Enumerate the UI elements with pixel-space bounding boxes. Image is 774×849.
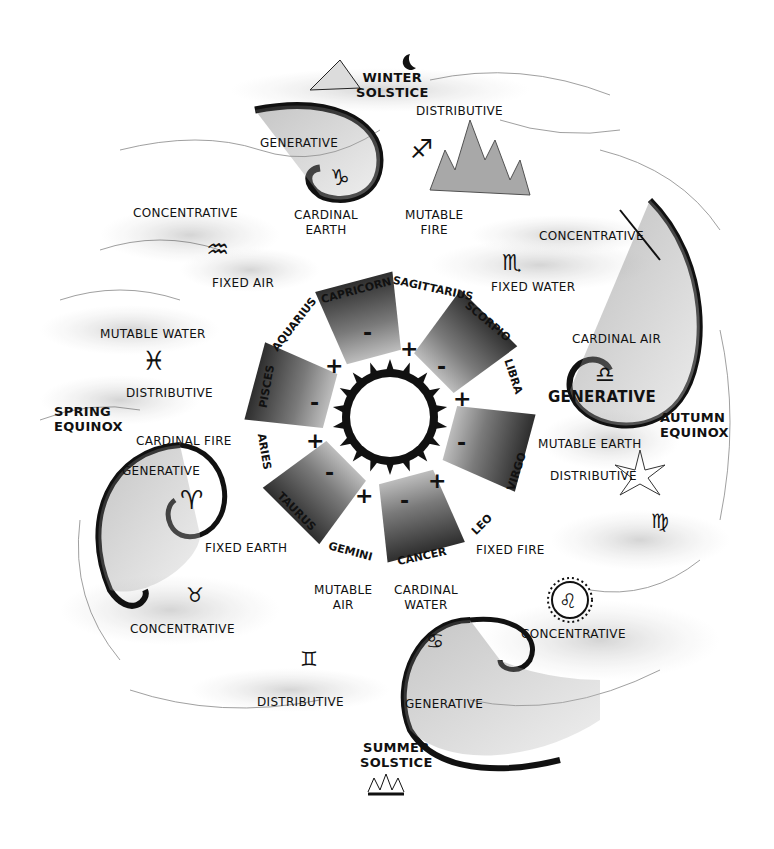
plus-libra: +: [453, 388, 471, 410]
mutable-fire-line-2: FIRE: [405, 223, 463, 238]
label-distributive-sagittarius: DISTRIBUTIVE: [416, 104, 503, 119]
zodiac-wheel-illustration: - - - - - - + + + + + + AQUARIUS CAPRICO…: [0, 0, 774, 849]
label-cardinal-fire: CARDINAL FIRE: [136, 434, 232, 449]
plus-aries: +: [306, 430, 324, 452]
cardinal-earth-line-1: CARDINAL: [294, 208, 358, 223]
label-summer-solstice: SUMMER SOLSTICE: [360, 740, 433, 770]
plus-sagittarius: +: [400, 338, 418, 360]
autumn-line-1: AUTUMN: [660, 410, 729, 425]
libra-glyph-icon: ♎: [595, 362, 615, 388]
label-distributive-virgo: DISTRIBUTIVE: [550, 469, 637, 484]
sagittarius-glyph-icon: ♐: [410, 136, 433, 162]
virgo-glyph-icon: ♍: [651, 508, 669, 534]
minus-cancer: -: [400, 490, 409, 512]
label-mutable-water: MUTABLE WATER: [100, 327, 206, 342]
label-fixed-air: FIXED AIR: [212, 276, 274, 291]
autumn-line-2: EQUINOX: [660, 425, 729, 440]
label-cardinal-air: CARDINAL AIR: [572, 332, 661, 347]
spring-line-1: SPRING: [54, 404, 123, 419]
label-concentrative-leo: CONCENTRATIVE: [521, 627, 626, 642]
label-concentrative-aquarius: CONCENTRATIVE: [133, 206, 238, 221]
pisces-glyph-icon: ♓: [142, 348, 165, 374]
crescent-moon: [403, 54, 416, 70]
label-distributive-gemini: DISTRIBUTIVE: [257, 695, 344, 710]
label-winter-solstice: WINTER SOLSTICE: [356, 70, 429, 100]
label-concentrative-taurus: CONCENTRATIVE: [130, 622, 235, 637]
minus-pisces: -: [310, 392, 319, 414]
cardinal-water-line-2: WATER: [394, 598, 458, 613]
minus-scorpio: -: [437, 356, 446, 378]
mutable-fire-line-1: MUTABLE: [405, 208, 463, 223]
cardinal-earth-line-2: EARTH: [294, 223, 358, 238]
label-autumn-equinox: AUTUMN EQUINOX: [660, 410, 729, 440]
label-generative-capricorn: GENERATIVE: [260, 136, 338, 151]
cancer-glyph-icon: ♋: [426, 628, 444, 654]
label-cardinal-water: CARDINAL WATER: [394, 583, 458, 613]
aquarius-glyph-icon: ♒: [206, 236, 229, 262]
mutable-air-line-1: MUTABLE: [314, 583, 372, 598]
minus-capricorn: -: [363, 322, 372, 344]
label-mutable-air: MUTABLE AIR: [314, 583, 372, 613]
leo-glyph-icon: ♌: [559, 588, 577, 614]
summer-line-2: SOLSTICE: [360, 755, 433, 770]
label-distributive-pisces: DISTRIBUTIVE: [126, 386, 213, 401]
plus-aquarius: +: [325, 355, 343, 377]
spring-line-2: EQUINOX: [54, 419, 123, 434]
label-fixed-earth: FIXED EARTH: [205, 541, 287, 556]
taurus-glyph-icon: ♉: [186, 582, 204, 608]
label-concentrative-scorpio: CONCENTRATIVE: [539, 229, 644, 244]
minus-taurus: -: [325, 462, 334, 484]
winter-line-2: SOLSTICE: [356, 85, 429, 100]
label-spring-equinox: SPRING EQUINOX: [54, 404, 123, 434]
gemini-glyph-icon: ♊: [300, 646, 318, 672]
summer-line-1: SUMMER: [360, 740, 433, 755]
label-fixed-water: FIXED WATER: [491, 280, 575, 295]
aries-glyph-icon: ♈: [180, 487, 203, 513]
plus-gemini: +: [355, 485, 373, 507]
label-generative-libra: GENERATIVE: [548, 390, 656, 405]
cardinal-water-line-1: CARDINAL: [394, 583, 458, 598]
label-mutable-earth: MUTABLE EARTH: [538, 437, 642, 452]
mutable-air-line-2: AIR: [314, 598, 372, 613]
label-cardinal-earth: CARDINAL EARTH: [294, 208, 358, 238]
label-generative-cancer: GENERATIVE: [405, 697, 483, 712]
label-fixed-fire: FIXED FIRE: [476, 543, 545, 558]
capricorn-glyph-icon: ♑: [330, 165, 350, 191]
plus-leo: +: [428, 470, 446, 492]
label-mutable-fire: MUTABLE FIRE: [405, 208, 463, 238]
label-generative-aries: GENERATIVE: [122, 464, 200, 479]
minus-virgo: -: [457, 432, 466, 454]
scorpio-glyph-icon: ♏: [502, 250, 522, 276]
winter-line-1: WINTER: [356, 70, 429, 85]
